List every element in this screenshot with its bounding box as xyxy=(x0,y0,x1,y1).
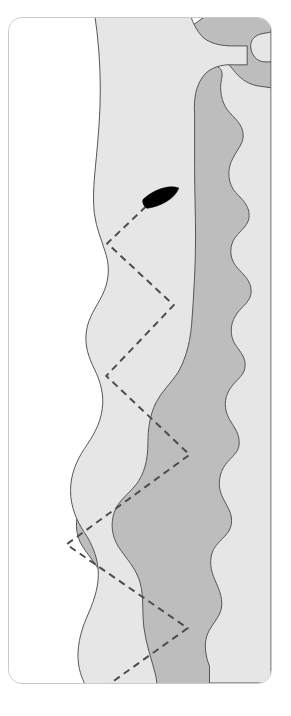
map-card: Shallow shelf band Mid-depth band Easter… xyxy=(8,17,272,684)
map-canvas[interactable] xyxy=(9,18,271,683)
